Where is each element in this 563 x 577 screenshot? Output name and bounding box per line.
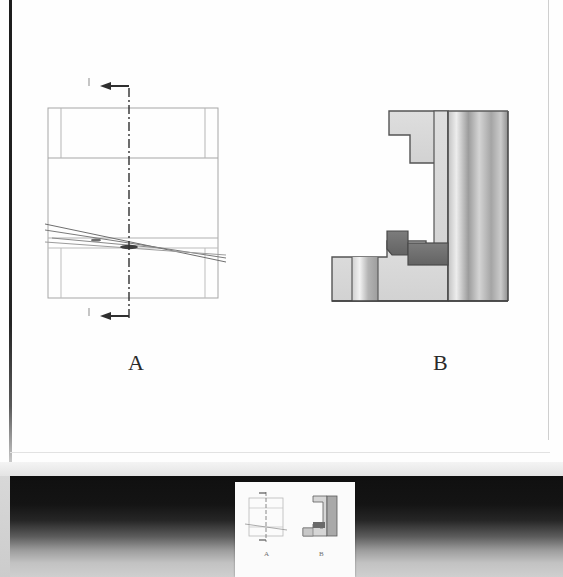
dark-rectangular-block xyxy=(408,243,448,265)
thumbnail-figure-b-dark-block xyxy=(313,522,325,528)
page-frame-bottom-edge xyxy=(10,452,550,453)
figure-b-solid-model xyxy=(330,105,530,305)
part-outline-rect xyxy=(48,108,218,298)
base-cylindrical-boss xyxy=(352,257,378,301)
section-arrow-bottom-head xyxy=(100,312,111,320)
page-frame-left-edge xyxy=(9,0,12,462)
figure-a-svg xyxy=(40,72,230,322)
section-intersection-mark-secondary xyxy=(91,238,101,241)
slide-thumbnail-art: A B xyxy=(235,482,355,577)
slide-root: A B A xyxy=(0,0,563,577)
band-light-strip xyxy=(0,462,563,476)
section-arrow-top-head xyxy=(100,82,111,90)
thumbnail-figure-b-base-boss xyxy=(303,528,313,536)
slide-canvas: A B xyxy=(0,0,563,462)
dark-corner-block xyxy=(387,231,408,255)
slide-thumbnail[interactable]: A B xyxy=(235,482,355,577)
diagonal-section-line-1 xyxy=(45,224,226,262)
thumbnail-caption-a: A xyxy=(264,550,269,558)
thumbnail-figure-b-column xyxy=(327,496,337,536)
page-frame-right-edge xyxy=(548,0,549,440)
figure-b-svg xyxy=(330,105,530,305)
right-cylindrical-column xyxy=(448,111,508,301)
bottom-film-band: A B xyxy=(0,462,563,577)
figure-a-caption: A xyxy=(128,350,144,376)
figure-a-drawing xyxy=(40,72,230,322)
thumbnail-caption-b: B xyxy=(319,550,324,558)
band-left-edge xyxy=(0,476,10,577)
figure-b-caption: B xyxy=(433,350,448,376)
